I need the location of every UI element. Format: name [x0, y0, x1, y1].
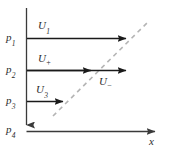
velocity-label-uminus-sub: − [107, 81, 112, 90]
velocity-label-u3: U3 [36, 84, 48, 98]
velocity-label-u3-base: U [36, 83, 44, 95]
figure-canvas [0, 0, 170, 154]
velocity-label-u3-sub: 3 [44, 91, 48, 100]
pressure-label-4-sub: 4 [12, 131, 16, 140]
pressure-label-4: p4 [6, 124, 15, 138]
velocity-label-u1: U1 [38, 20, 50, 34]
velocity-label-uminus-base: U [99, 75, 107, 87]
pressure-label-1-sub: 1 [12, 39, 16, 48]
velocity-label-u1-base: U [38, 19, 46, 31]
pressure-label-3-sub: 3 [12, 102, 16, 111]
pressure-label-3: p3 [6, 95, 15, 109]
pressure-label-2: p2 [6, 64, 15, 78]
velocity-label-uminus: U− [99, 76, 111, 87]
pressure-label-2-sub: 2 [12, 71, 16, 80]
characteristic-dashed-line [53, 21, 149, 116]
pressure-label-3-base: p [6, 94, 12, 106]
pressure-label-1: p1 [6, 32, 15, 46]
pressure-label-4-base: p [6, 123, 12, 135]
physics-figure: p1 p2 p3 p4 U1 U+ U3 U− x [0, 0, 170, 154]
velocity-label-uplus-sub: + [46, 58, 51, 67]
velocity-label-u1-sub: 1 [46, 27, 50, 36]
pressure-label-2-base: p [6, 63, 12, 75]
x-axis-label: x [149, 136, 154, 147]
pressure-label-1-base: p [6, 31, 12, 43]
velocity-label-uplus-base: U [38, 52, 46, 64]
velocity-label-uplus: U+ [38, 53, 50, 64]
